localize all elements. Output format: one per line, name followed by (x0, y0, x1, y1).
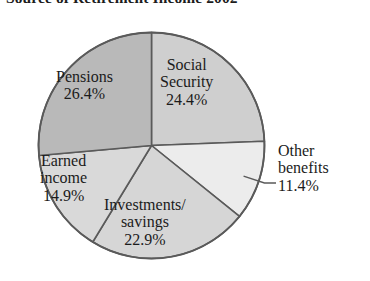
slice-label-earned-income: Earned income 14.9% (40, 152, 87, 204)
slice-value-social-security: 24.4% (160, 91, 213, 108)
slice-value-other-benefits: 11.4% (278, 177, 329, 194)
slice-label-earned-income-line1: Earned (41, 152, 86, 169)
slice-label-investments-savings-line2: savings (104, 213, 186, 230)
slice-label-investments-savings-line1: Investments/ (104, 196, 186, 213)
slice-label-social-security-line2: Security (160, 73, 213, 90)
slice-label-other-benefits: Other benefits 11.4% (278, 142, 329, 194)
slice-label-other-benefits-line2: benefits (278, 159, 329, 176)
slice-label-other-benefits-line1: Other (278, 142, 314, 159)
slice-value-pensions: 26.4% (56, 85, 113, 102)
slice-label-earned-income-line2: income (40, 169, 87, 186)
slice-label-social-security: Social Security 24.4% (160, 56, 213, 108)
slice-label-pensions-name: Pensions (56, 68, 113, 85)
slice-label-investments-savings: Investments/ savings 22.9% (104, 196, 186, 248)
slice-value-investments-savings: 22.9% (104, 231, 186, 248)
slice-label-social-security-line1: Social (167, 56, 207, 73)
slice-label-pensions: Pensions 26.4% (56, 68, 113, 103)
slice-value-earned-income: 14.9% (40, 187, 87, 204)
pie-chart-figure: Source of Retirement Income 2002 Pension… (0, 0, 370, 281)
